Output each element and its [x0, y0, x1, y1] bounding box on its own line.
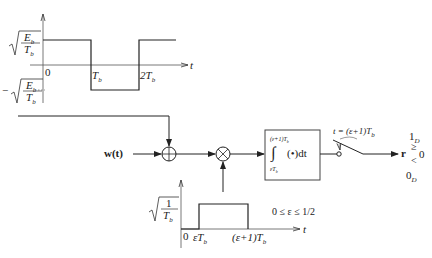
top-axis-t: t: [190, 60, 193, 71]
output-label-r: r: [401, 148, 406, 159]
top-waveform: [30, 14, 188, 103]
top-tick-2Tb: 2Tb: [140, 70, 155, 84]
sampler-time-label: t = (ε+1)Tb: [333, 127, 375, 139]
bottom-tick-start: εTb: [193, 232, 207, 246]
bottom-tick-0: 0: [183, 231, 189, 242]
input-label-wt: w(t): [104, 148, 123, 159]
sampler-contact: [337, 152, 341, 156]
top-tick-Tb: Tb: [92, 70, 102, 84]
bottom-tick-end: (ε+1)Tb: [232, 232, 266, 246]
epsilon-constraint: 0 ≤ ε ≤ 1/2: [272, 207, 315, 217]
top-tick-0: 0: [45, 67, 51, 78]
integral-sign: ∫: [271, 145, 275, 161]
integrand: (•)dt: [287, 148, 307, 159]
bottom-axis-t: t: [303, 224, 306, 235]
top-negative-sign: −: [2, 85, 8, 96]
